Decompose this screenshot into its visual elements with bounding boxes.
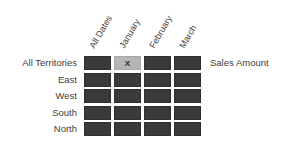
grid-cell <box>144 89 171 103</box>
grid-cell <box>174 73 201 87</box>
grid-cell-selected: X <box>114 56 141 70</box>
grid-cell <box>114 122 141 136</box>
measure-label-sales-amount: Sales Amount <box>210 56 269 70</box>
grid-cell <box>84 122 111 136</box>
grid-cell <box>174 122 201 136</box>
grid-cell <box>174 89 201 103</box>
column-header-march: March <box>177 23 198 50</box>
grid-cell <box>84 73 111 87</box>
grid-cell <box>84 106 111 120</box>
row-label-east: East <box>58 73 77 87</box>
column-header-all-dates: All Dates <box>87 14 114 50</box>
grid-cell <box>84 89 111 103</box>
grid-cell <box>84 56 111 70</box>
grid-cell <box>144 73 171 87</box>
row-label-all-territories: All Territories <box>22 56 77 70</box>
grid-cell <box>114 73 141 87</box>
column-header-february: February <box>147 14 174 50</box>
row-label-west: West <box>56 89 77 103</box>
row-label-south: South <box>52 106 77 120</box>
grid-cell <box>174 106 201 120</box>
grid-cell <box>174 56 201 70</box>
row-label-north: North <box>54 122 77 136</box>
column-header-january: January <box>117 17 142 50</box>
selected-marker: X <box>125 59 130 68</box>
grid-cell <box>144 56 171 70</box>
grid-cell <box>114 89 141 103</box>
grid-cell <box>144 122 171 136</box>
grid-cell <box>114 106 141 120</box>
grid-cell <box>144 106 171 120</box>
